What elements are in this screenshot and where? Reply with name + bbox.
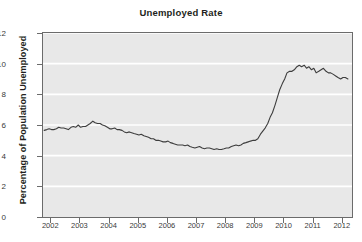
x-axis-tick-mark: [79, 218, 80, 223]
x-axis-tick-mark: [254, 218, 255, 223]
y-axis-tick-label: 10: [0, 59, 6, 68]
data-series-group: [44, 65, 348, 149]
x-axis-tick-label: 2012: [322, 221, 362, 230]
y-axis-tick-label: 0: [0, 213, 6, 222]
y-axis-title: Percentage of Population Unemployed: [18, 25, 28, 215]
x-axis-tick-label: 2008: [205, 221, 245, 230]
x-axis-tick-label: 2007: [176, 221, 216, 230]
x-axis-tick-mark: [138, 218, 139, 223]
y-axis-tick-label: 4: [0, 151, 6, 160]
plot-area: [42, 32, 353, 218]
x-axis-tick-mark: [225, 218, 226, 223]
x-axis-tick-mark: [109, 218, 110, 223]
data-line: [44, 65, 348, 149]
x-axis-tick-label: 2005: [118, 221, 158, 230]
chart-title: Unemployed Rate: [0, 7, 362, 18]
x-axis-tick-mark: [283, 218, 284, 223]
chart-figure: Unemployed Rate Percentage of Population…: [0, 0, 362, 242]
x-axis-tick-mark: [196, 218, 197, 223]
x-axis-tick-label: 2010: [263, 221, 303, 230]
x-axis-tick-label: 2009: [234, 221, 274, 230]
x-axis-tick-label: 2011: [293, 221, 333, 230]
x-axis-tick-mark: [50, 218, 51, 223]
x-axis-tick-label: 2003: [59, 221, 99, 230]
x-axis-tick-mark: [342, 218, 343, 223]
y-axis-tick-label: 12: [0, 29, 6, 38]
x-axis-tick-label: 2006: [147, 221, 187, 230]
y-axis-tick-label: 2: [0, 182, 6, 191]
x-axis-tick-mark: [313, 218, 314, 223]
y-axis-tick-label: 6: [0, 121, 6, 130]
y-axis-tick-label: 8: [0, 90, 6, 99]
gridlines: [43, 33, 352, 186]
line-chart-svg: [43, 33, 352, 217]
x-axis-tick-label: 2004: [89, 221, 129, 230]
x-axis-tick-mark: [167, 218, 168, 223]
x-axis-tick-label: 2002: [30, 221, 70, 230]
